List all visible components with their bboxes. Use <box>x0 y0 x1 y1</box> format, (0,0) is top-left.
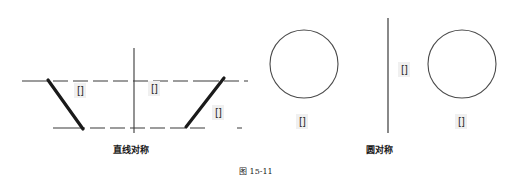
panel-line-symmetry <box>22 48 248 133</box>
figure-container: [] [] [] [] [] [] 直线对称 圆对称 图 15-11 <box>0 0 522 183</box>
figure-number: 图 15-11 <box>239 165 273 176</box>
label-tag: [] <box>398 62 410 77</box>
panel-circle-original <box>270 30 338 98</box>
label-tag: [] <box>296 114 308 129</box>
mirrored-circle <box>428 30 496 98</box>
label-tag: [] <box>212 105 224 120</box>
label-tag: [] <box>74 83 86 98</box>
label-tag: [] <box>455 114 467 129</box>
panel-caption-circle-symmetry: 圆对称 <box>366 143 393 156</box>
label-tag: [] <box>148 81 160 96</box>
panel-caption-line-symmetry: 直线对称 <box>113 143 149 156</box>
source-circle <box>270 30 338 98</box>
